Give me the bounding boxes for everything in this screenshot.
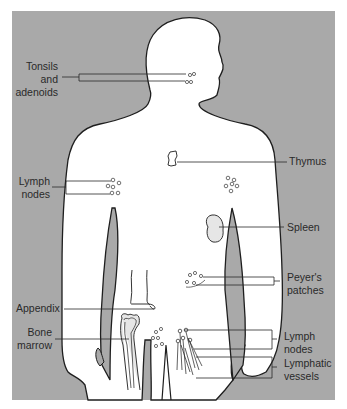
label-peyers-line2: patches <box>287 284 324 297</box>
label-lymph-nodes-lower: Lymph nodes <box>284 330 315 356</box>
label-lymph-nodes-upper-line1: Lymph <box>6 175 50 188</box>
label-lymph-nodes-upper-line2: nodes <box>6 188 50 201</box>
label-peyers-line1: Peyer's <box>287 271 324 284</box>
label-lymph-nodes-upper: Lymph nodes <box>6 175 50 201</box>
label-lymphatic-vessels: Lymphatic vessels <box>284 357 331 383</box>
label-tonsils-and-adenoids: Tonsils and adenoids <box>14 60 58 99</box>
label-tonsils-line3: adenoids <box>14 86 58 99</box>
label-peyers-patches: Peyer's patches <box>287 271 324 297</box>
label-spleen: Spleen <box>287 221 320 234</box>
label-tonsils-line1: Tonsils <box>14 60 58 73</box>
label-lymphatic-vessels-line2: vessels <box>284 370 331 383</box>
label-appendix: Appendix <box>16 302 60 315</box>
label-lymphatic-vessels-line1: Lymphatic <box>284 357 331 370</box>
thymus-organ <box>168 151 177 166</box>
label-bone-marrow-line2: marrow <box>10 339 52 352</box>
label-thymus: Thymus <box>289 155 326 168</box>
label-bone-marrow-line1: Bone <box>10 326 52 339</box>
label-tonsils-line2: and <box>14 73 58 86</box>
spleen-organ <box>206 215 223 242</box>
label-bone-marrow: Bone marrow <box>10 326 52 352</box>
label-lymph-nodes-lower-line2: nodes <box>284 343 315 356</box>
label-lymph-nodes-lower-line1: Lymph <box>284 330 315 343</box>
